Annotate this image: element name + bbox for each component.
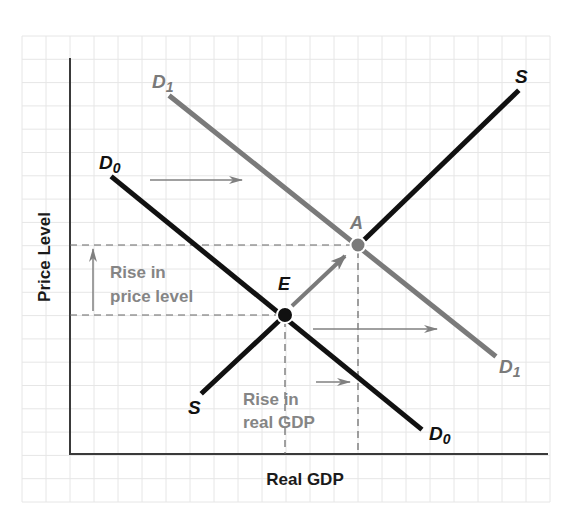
ad-as-diagram: D1 D0 S S D1 D0 A E Rise in price level …	[0, 0, 570, 527]
point-e	[277, 307, 293, 323]
gdp-rise-text-line1: Rise in	[243, 390, 299, 409]
label-s-bottom: S	[188, 397, 201, 418]
axes	[69, 58, 548, 454]
movement-arrow-icon	[292, 256, 345, 306]
price-rise-text-line2: price level	[110, 287, 193, 306]
background-grid	[22, 36, 550, 502]
label-d0-bottom: D0	[429, 423, 451, 447]
supply-curve-s-lower	[203, 320, 280, 392]
gdp-rise-text-line2: real GDP	[243, 413, 315, 432]
label-d1-bottom: D1	[499, 356, 521, 380]
label-d1-top: D1	[152, 71, 174, 95]
supply-curve-s-upper	[366, 92, 517, 238]
label-d0-top: D0	[99, 152, 121, 176]
y-axis-title: Price Level	[35, 212, 54, 302]
price-rise-text-line1: Rise in	[110, 263, 166, 282]
point-a	[351, 238, 366, 253]
label-point-e: E	[278, 274, 291, 294]
label-point-a: A	[349, 213, 363, 233]
label-s-top: S	[515, 66, 528, 87]
demand-curve-d1	[171, 97, 494, 355]
x-axis-title: Real GDP	[266, 470, 343, 489]
